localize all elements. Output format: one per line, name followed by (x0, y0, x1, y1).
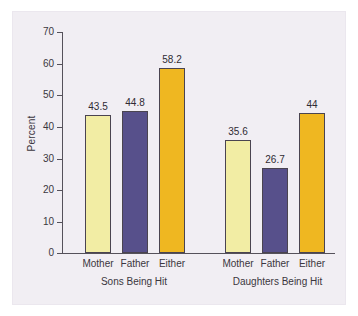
y-tick-label-0: 0 (14, 248, 54, 258)
bar-daughters-father[interactable] (262, 168, 288, 253)
y-tick-label-10: 10 (14, 217, 54, 227)
y-tick-20 (57, 190, 62, 191)
y-tick-label-60: 60 (14, 59, 54, 69)
bar-value-daughters-father: 26.7 (253, 155, 297, 165)
group-label-sons: Sons Being Hit (74, 276, 194, 288)
y-tick-label-70: 70 (14, 27, 54, 37)
y-tick-40 (57, 127, 62, 128)
bar-value-daughters-mother: 35.6 (216, 127, 260, 137)
chart-figure: Percent 70 60 50 40 30 20 10 0 43.5 44.8… (0, 0, 358, 316)
x-axis-line (62, 253, 335, 254)
y-tick-70 (57, 32, 62, 33)
bar-value-sons-father: 44.8 (113, 98, 157, 108)
bar-value-daughters-either: 44 (290, 100, 334, 110)
y-tick-label-40: 40 (14, 122, 54, 132)
bar-sons-mother[interactable] (85, 115, 111, 253)
y-tick-0 (57, 253, 62, 254)
y-tick-30 (57, 159, 62, 160)
y-axis-line (62, 32, 63, 254)
bar-value-sons-either: 58.2 (150, 55, 194, 65)
y-tick-60 (57, 64, 62, 65)
y-tick-label-20: 20 (14, 185, 54, 195)
x-label-daughters-either: Either (289, 258, 335, 270)
bar-daughters-either[interactable] (299, 113, 325, 253)
bar-daughters-mother[interactable] (225, 140, 251, 253)
y-tick-label-30: 30 (14, 154, 54, 164)
y-tick-10 (57, 222, 62, 223)
y-tick-label-50: 50 (14, 90, 54, 100)
y-tick-50 (57, 95, 62, 96)
bar-sons-either[interactable] (159, 68, 185, 253)
x-label-sons-either: Either (149, 258, 195, 270)
group-label-daughters: Daughters Being Hit (210, 276, 345, 288)
bar-sons-father[interactable] (122, 111, 148, 253)
